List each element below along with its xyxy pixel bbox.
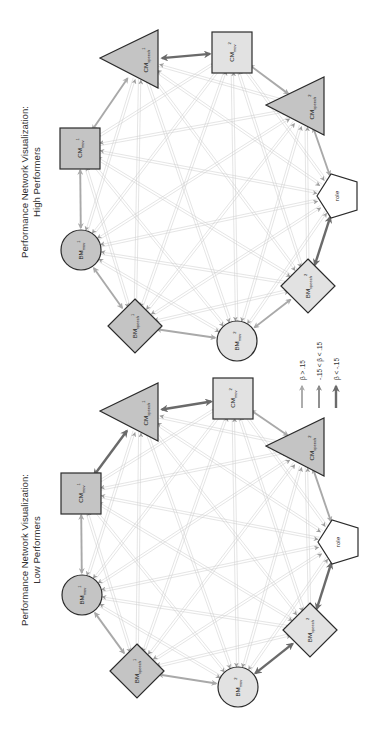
network-figure: CMspeech1CMmov2CMspeech2roleBMspeech2BMm… xyxy=(0,0,371,733)
panel-title-low: Performance Network Visualization:Low Pe… xyxy=(19,474,42,626)
legend-label: β > .15 xyxy=(299,360,307,380)
node-CMm2: CMmov2 xyxy=(212,32,252,73)
edge-bidirectional-CMm2-CMs2 xyxy=(250,65,289,94)
edge-bidirectional-CMs1-CMm2 xyxy=(162,54,210,58)
nodes-layer: CMspeech1CMmov2CMspeech2roleBMspeech2BMm… xyxy=(60,30,358,707)
node-BMm2: BMmov2 xyxy=(217,321,257,361)
edge-CMs1-to-BMs1 xyxy=(136,432,139,651)
legend-item-neutral: -.15 < β < .15 xyxy=(316,341,324,408)
node-role: role xyxy=(317,174,357,218)
edge-BMs1-to-CMs2 xyxy=(149,465,294,657)
edge-BMs2-to-CMm1 xyxy=(99,502,295,619)
edge-bidirectional-BMm2-BMs1 xyxy=(157,329,215,338)
edge-bidirectional-BMs1-BMm1 xyxy=(94,268,123,308)
edge-BMm1-to-CMs2 xyxy=(99,460,290,586)
edge-BMm2-to-CMs1 xyxy=(148,431,233,668)
nodes-low: CMspeech1CMmov2CMspeech2roleBMspeech2BMm… xyxy=(61,378,358,707)
node-CMm1: CMmov1 xyxy=(60,128,100,169)
edge-role-to-BMm1 xyxy=(101,545,319,590)
edge-BMs1-to-role xyxy=(154,554,322,662)
node-BMm1: BMmov1 xyxy=(61,230,101,270)
node-CMs1: CMspeech1 xyxy=(100,383,158,441)
edge-BMm1-to-BMs2 xyxy=(101,599,290,628)
edge-CMs1-to-BMm2 xyxy=(145,78,229,322)
edge-bidirectional-role-BMs2 xyxy=(317,563,332,609)
edge-CMs2-to-BMs2 xyxy=(305,126,307,266)
node-CMm1: CMmov1 xyxy=(61,473,101,514)
edge-role-to-CMm1 xyxy=(101,496,320,538)
nodes-high: CMspeech1CMmov2CMspeech2roleBMspeech2BMm… xyxy=(60,30,357,361)
edge-BMm1-to-role xyxy=(101,547,319,592)
edge-BMm1-to-CMs2 xyxy=(98,119,290,241)
legend: β > .15-.15 < β < .15β < -.15 xyxy=(299,341,341,408)
node-BMs1: BMspeech1 xyxy=(110,644,164,698)
edge-bidirectional-CMs2-role xyxy=(313,128,330,175)
node-CMs1: CMspeech1 xyxy=(100,30,158,88)
edge-CMm1-to-role xyxy=(99,498,318,540)
edge-BMs2-to-BMm1 xyxy=(102,597,291,626)
titles-layer: Performance Network Visualization:High P… xyxy=(19,106,42,626)
legend-label: β < -.15 xyxy=(333,358,341,380)
edge-role-to-BMm1 xyxy=(100,199,318,245)
edge-BMm1-to-role xyxy=(100,201,318,247)
edge-bidirectional-role-BMs2 xyxy=(315,217,331,265)
node-BMm2: BMmov2 xyxy=(218,667,258,707)
title-line-1: Performance Network Visualization: xyxy=(19,106,30,258)
edge-CMm2-to-BMs1 xyxy=(141,70,225,307)
edge-bidirectional-CMm2-CMs2 xyxy=(251,410,288,435)
edge-BMm2-to-CMs1 xyxy=(148,79,232,323)
edge-CMs1-to-BMs2 xyxy=(151,429,297,615)
edge-BMs2-to-CMs2 xyxy=(307,127,309,267)
title-line-2: Low Performers xyxy=(31,516,42,584)
edge-CMm2-to-BMm1 xyxy=(92,66,219,233)
edge-CMs2-to-CMm1 xyxy=(100,451,287,488)
edges-layer xyxy=(80,54,331,684)
title-line-1: Performance Network Visualization: xyxy=(19,474,30,626)
legend-item-negative: β < -.15 xyxy=(333,358,341,408)
node-BMs2: BMspeech2 xyxy=(283,603,337,657)
node-BMm1: BMmov1 xyxy=(62,575,102,615)
node-CMm2: CMmov2 xyxy=(213,378,253,419)
edge-bidirectional-BMm1-CMm1 xyxy=(81,515,82,573)
node-label: role xyxy=(333,190,340,201)
edge-bidirectional-CMm1-CMs1 xyxy=(92,78,127,130)
node-BMs1: BMspeech1 xyxy=(108,299,162,353)
title-line-2: High Performers xyxy=(31,147,42,217)
edge-bidirectional-CMs1-CMm2 xyxy=(162,402,212,410)
node-CMs2: CMspeech2 xyxy=(266,77,324,135)
edge-role-to-CMs1 xyxy=(157,70,322,184)
edge-bidirectional-BMm2-BMs1 xyxy=(159,674,217,683)
node-role: role xyxy=(318,520,358,564)
legend-item-positive: β > .15 xyxy=(299,360,307,408)
edge-BMs1-to-CMm2 xyxy=(144,417,227,653)
edge-BMs1-to-CMs1 xyxy=(138,433,141,652)
edge-bidirectional-BMs2-BMm2 xyxy=(255,644,293,674)
edge-bidirectional-BMs2-BMm2 xyxy=(254,299,290,327)
edge-BMs1-to-CMs1 xyxy=(137,80,141,307)
edge-bidirectional-BMm1-CMm1 xyxy=(80,170,81,228)
edge-CMm1-to-role xyxy=(98,153,317,194)
edge-BMs1-to-BMs2 xyxy=(154,292,289,323)
panel-title-high: Performance Network Visualization:High P… xyxy=(19,106,42,258)
node-label: role xyxy=(334,536,341,547)
edge-BMs2-to-CMs1 xyxy=(153,428,299,614)
edge-CMs2-to-BMm1 xyxy=(98,457,289,583)
edge-CMm1-to-BMs2 xyxy=(96,159,291,277)
edge-BMs1-to-CMs2 xyxy=(148,124,295,312)
edge-CMm2-to-BMm2 xyxy=(232,417,236,667)
legend-label: -.15 < β < .15 xyxy=(316,341,324,380)
